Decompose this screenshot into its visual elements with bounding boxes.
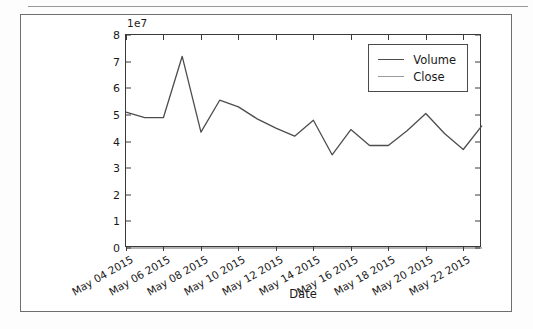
- y-tick-mark: [475, 88, 480, 89]
- x-tick-mark: [276, 246, 277, 251]
- y-tick-mark: [475, 141, 480, 142]
- legend-label-volume: Volume: [413, 53, 456, 67]
- page-background: 1e7 Volume Close 012345678May 04 2015May…: [0, 0, 533, 329]
- y-tick-mark: [126, 141, 131, 142]
- y-tick-label: 2: [113, 188, 126, 201]
- y-tick-mark: [126, 88, 131, 89]
- y-tick-label: 7: [113, 55, 126, 68]
- x-tick-mark: [313, 35, 314, 40]
- x-tick-mark: [426, 246, 427, 251]
- x-tick-mark: [126, 35, 127, 40]
- y-tick-mark: [475, 35, 480, 36]
- x-tick-mark: [201, 35, 202, 40]
- y-tick-label: 3: [113, 162, 126, 175]
- x-tick-mark: [163, 246, 164, 251]
- x-tick-mark: [388, 35, 389, 40]
- legend-swatch-close: [378, 76, 404, 77]
- legend-entry-volume: Volume: [378, 51, 456, 68]
- y-axis-offset-label: 1e7: [127, 17, 147, 29]
- x-tick-mark: [238, 246, 239, 251]
- x-tick-mark: [351, 246, 352, 251]
- y-tick-mark: [475, 248, 480, 249]
- x-tick-mark: [388, 246, 389, 251]
- x-tick-mark: [163, 35, 164, 40]
- y-tick-label: 1: [113, 215, 126, 228]
- legend-label-close: Close: [413, 70, 444, 84]
- x-tick-mark: [426, 35, 427, 40]
- y-tick-mark: [475, 221, 480, 222]
- chart-legend: Volume Close: [368, 44, 468, 92]
- x-tick-mark: [313, 246, 314, 251]
- y-tick-mark: [475, 168, 480, 169]
- x-tick-mark: [238, 35, 239, 40]
- x-axis-title: Date: [125, 287, 481, 301]
- legend-entry-close: Close: [378, 68, 456, 85]
- x-tick-mark: [463, 246, 464, 251]
- y-tick-label: 8: [113, 29, 126, 42]
- y-tick-mark: [126, 194, 131, 195]
- matplotlib-figure: 1e7 Volume Close 012345678May 04 2015May…: [21, 15, 511, 311]
- y-tick-label: 6: [113, 82, 126, 95]
- y-tick-label: 4: [113, 135, 126, 148]
- y-tick-mark: [475, 194, 480, 195]
- x-tick-mark: [463, 35, 464, 40]
- legend-swatch-volume: [378, 59, 404, 60]
- x-tick-mark: [276, 35, 277, 40]
- x-tick-mark: [126, 246, 127, 251]
- chart-card: 1e7 Volume Close 012345678May 04 2015May…: [20, 14, 512, 312]
- x-tick-mark: [201, 246, 202, 251]
- y-tick-label: 0: [113, 242, 126, 255]
- y-tick-mark: [126, 221, 131, 222]
- x-tick-mark: [351, 35, 352, 40]
- top-divider: [28, 6, 528, 7]
- plot-area: Volume Close 012345678May 04 2015May 06 …: [125, 34, 481, 247]
- y-tick-mark: [126, 114, 131, 115]
- y-tick-mark: [475, 61, 480, 62]
- y-tick-mark: [126, 168, 131, 169]
- y-tick-label: 5: [113, 108, 126, 121]
- y-tick-mark: [475, 114, 480, 115]
- y-tick-mark: [126, 61, 131, 62]
